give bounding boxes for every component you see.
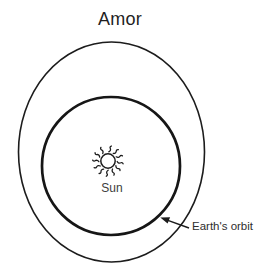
sun-icon xyxy=(93,146,123,176)
earth-orbit-label: Earth's orbit xyxy=(192,220,253,232)
sun-rays xyxy=(93,146,123,176)
sun-label: Sun xyxy=(92,181,132,195)
orbit-diagram-canvas xyxy=(0,0,261,279)
sun-core-circle xyxy=(101,154,115,168)
earths-orbit-arrowhead xyxy=(160,217,170,223)
amor-orbit-diagram: Amor xyxy=(0,0,261,279)
amor-orbit-ellipse xyxy=(19,42,205,262)
earths-orbit-arrow-line xyxy=(167,220,190,228)
earth-orbit-circle xyxy=(42,97,180,235)
